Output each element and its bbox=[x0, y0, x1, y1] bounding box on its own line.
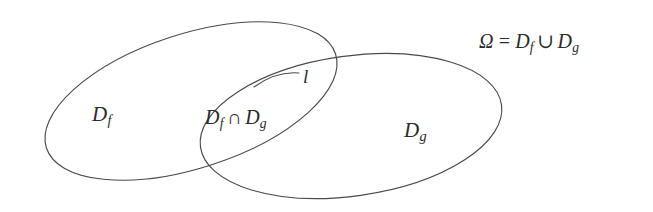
label-intersection-subscript-2: g bbox=[260, 116, 267, 131]
label-intersection-D1: D bbox=[205, 106, 219, 128]
label-set-dg-subscript: g bbox=[419, 128, 426, 144]
label-intersection-subscript-1: f bbox=[219, 116, 223, 131]
formula-left-D: D bbox=[515, 30, 529, 52]
label-curve-l-text: l bbox=[303, 66, 308, 87]
union-operator-icon: ∪ bbox=[534, 30, 558, 52]
formula-omega-union: Ω=Df∪Dg bbox=[479, 31, 579, 55]
formula-omega-symbol: Ω bbox=[479, 30, 493, 52]
label-set-dg-D: D bbox=[404, 118, 419, 142]
label-set-df: Df bbox=[92, 104, 111, 128]
intersection-operator-icon: ∩ bbox=[224, 106, 246, 128]
venn-diagram-figure: Df Df∩Dg Dg l Ω=Df∪Dg bbox=[0, 0, 653, 212]
label-set-df-subscript: f bbox=[107, 112, 111, 128]
formula-equals-sign: = bbox=[493, 30, 515, 52]
label-intersection-D2: D bbox=[245, 106, 259, 128]
label-set-dg: Dg bbox=[404, 120, 427, 144]
label-intersection-df-dg: Df∩Dg bbox=[205, 107, 267, 131]
formula-right-subscript: g bbox=[572, 40, 579, 55]
label-curve-l: l bbox=[303, 67, 308, 86]
ellipse-set-df bbox=[26, 0, 357, 212]
label-set-df-D: D bbox=[92, 102, 107, 126]
formula-right-D: D bbox=[558, 30, 572, 52]
